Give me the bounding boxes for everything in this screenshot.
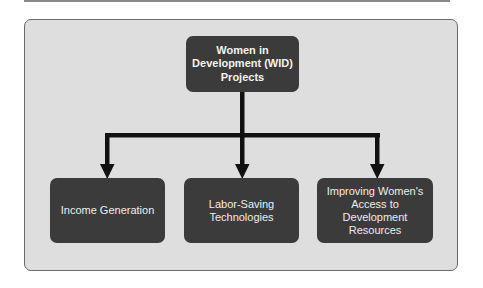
arrow-head-icon xyxy=(370,164,385,179)
root-node: Women in Development (WID) Projects xyxy=(186,36,299,92)
child-node-income-generation: Income Generation xyxy=(50,178,165,243)
child-node-labor-saving-technologies: Labor-Saving Technologies xyxy=(184,178,299,243)
root-node-line: Projects xyxy=(192,71,293,85)
child-node-line: Improving Women's xyxy=(327,185,424,198)
child-node-line: Technologies xyxy=(209,211,274,224)
child-node-line: Labor-Saving xyxy=(209,198,274,211)
child-node-line: Development xyxy=(327,211,424,224)
child-node-line: Resources xyxy=(327,224,424,237)
child-node-line: Access to xyxy=(327,198,424,211)
child-node-improving-access: Improving Women's Access to Development … xyxy=(317,178,433,243)
arrow-head-icon xyxy=(235,164,250,179)
root-node-line: Development (WID) xyxy=(192,57,293,71)
root-node-line: Women in xyxy=(192,44,293,58)
arrow-head-icon xyxy=(100,164,115,179)
child-node-label: Income Generation xyxy=(61,204,155,217)
